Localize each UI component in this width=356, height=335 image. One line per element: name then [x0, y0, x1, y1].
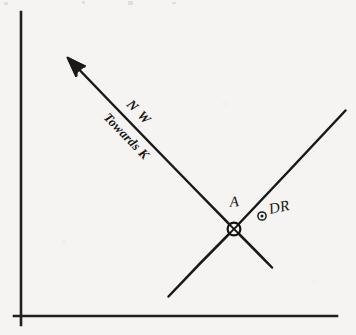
- dr-label: DR: [266, 197, 291, 217]
- dr-track-line-group: [169, 111, 346, 297]
- dr-track-line: [169, 111, 346, 297]
- nw-bearing-line-group: [67, 57, 272, 267]
- fix-label-a: A: [228, 193, 241, 210]
- fix-symbol-group: [228, 223, 241, 236]
- nw-bearing-line: [70, 60, 273, 268]
- dr-symbol-group: [258, 212, 266, 220]
- plot-canvas: A DR N W Towards K: [0, 0, 356, 335]
- bearing-label-direction: N W: [123, 96, 154, 128]
- navigation-plot-figure: A DR N W Towards K: [0, 0, 356, 335]
- dr-center-dot-icon: [261, 215, 264, 218]
